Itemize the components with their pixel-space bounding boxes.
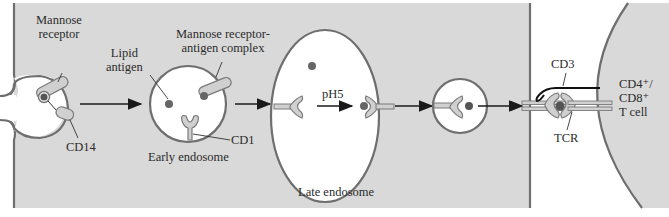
label-mannose-receptor: Mannose receptor (36, 13, 82, 41)
diagram-canvas: Mannose receptor CD14 Lipid antigen Mann… (0, 0, 669, 217)
label-tcr: TCR (554, 131, 578, 145)
lipid-antigen-dot (165, 100, 173, 108)
antigen-dot (40, 93, 47, 100)
label-cd14: CD14 (66, 140, 96, 154)
label-late-endosome: Late endosome (298, 185, 374, 199)
label-cd3: CD3 (551, 57, 575, 71)
label-cd1: CD1 (231, 133, 255, 147)
label-ph5: pH5 (322, 87, 344, 101)
label-early-endosome: Early endosome (148, 150, 229, 164)
label-mannose-receptor-complex: Mannose receptor- antigen complex (176, 27, 270, 55)
label-t-cell: CD4⁺/ CD8⁺ T cell (619, 77, 653, 119)
label-lipid-antigen: Lipid antigen (106, 46, 143, 74)
